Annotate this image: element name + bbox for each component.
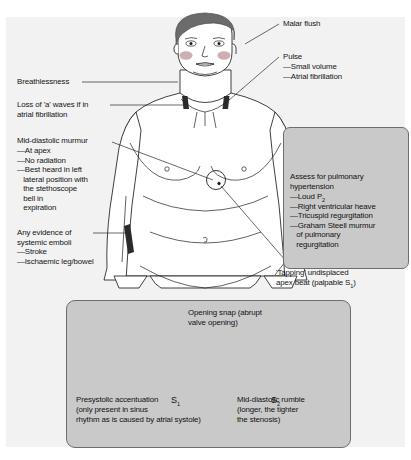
right-panel-item-5: regurgitation xyxy=(290,240,339,250)
s1-subscript: 1 xyxy=(177,401,180,407)
label-pulse-item-1: —Atrial fibrillation xyxy=(283,72,342,82)
label-mid-diastolic-item-2: —Best heard in left xyxy=(17,165,82,175)
label-presystolic-line-0: Presystolic accentuation xyxy=(76,395,158,405)
right-panel-item-2: —Tricuspid regurgitation xyxy=(290,211,373,221)
label-pulse-item-0: —Small volume xyxy=(283,62,337,72)
label-mid-diastolic-item-6: expiration xyxy=(17,203,56,213)
label-emboli-item-0: —Stroke xyxy=(17,247,47,257)
right-panel-item-0-text: —Loud P xyxy=(290,192,322,201)
label-loss-a-waves-line-1: atrial fibrillation xyxy=(17,110,67,120)
label-tapping-apex-line-1: apex beat (palpable S1) xyxy=(276,278,356,288)
right-panel-item-1: —Right ventricular heave xyxy=(290,202,376,212)
label-emboli-item-1: —Ischaemic leg/bowel xyxy=(17,257,94,267)
label-mid-diastolic-murmur-title: Mid-diastolic murmur xyxy=(17,136,88,146)
right-panel-heading-0: Assess for pulmonary xyxy=(290,172,363,182)
label-opening-snap-line-0: Opening snap (abrupt xyxy=(188,308,262,318)
label-opening-snap-line-1: valve opening) xyxy=(188,318,238,328)
label-malar-flush: Malar flush xyxy=(283,19,320,29)
right-panel-item-0: —Loud P2 xyxy=(290,192,325,202)
label-mid-diastolic-item-1: —No radiation xyxy=(17,156,66,166)
tapping-apex-close: ) xyxy=(353,278,356,287)
label-pulse-title: Pulse xyxy=(283,52,302,62)
label-emboli-title-0: Any evidence of xyxy=(17,228,71,238)
label-breathlessness: Breathlessness xyxy=(17,77,69,87)
label-presystolic-line-2: rhythm as is caused by atrial systole) xyxy=(76,415,201,425)
label-rumble-line-2: the stenosis) xyxy=(237,415,280,425)
label-emboli-title-1: systemic emboli xyxy=(17,238,71,248)
right-panel-item-4: of pulmonary xyxy=(290,230,340,240)
tapping-apex-text: apex beat (palpable S xyxy=(276,278,350,287)
label-loss-a-waves-line-0: Loss of 'a' waves if in xyxy=(17,100,88,110)
label-mid-diastolic-item-3: lateral position with xyxy=(17,175,88,185)
s2-subscript: 2 xyxy=(277,401,280,407)
label-heart-sound-s1: S1 xyxy=(171,396,180,406)
right-panel-heading-1: hypertension xyxy=(290,182,334,192)
label-mid-diastolic-item-4: the stethoscope xyxy=(17,184,77,194)
label-heart-sound-s2: S2 xyxy=(271,396,280,406)
label-tapping-apex-line-0: 'Tapping' undisplaced xyxy=(276,268,348,278)
label-mid-diastolic-item-0: —At apex xyxy=(17,146,51,156)
label-rumble-line-1: (longer, the tighter xyxy=(237,405,298,415)
label-presystolic-line-1: (only present in sinus xyxy=(76,405,148,415)
mitral-stenosis-figure: Malar flush Pulse —Small volume —Atrial … xyxy=(0,0,411,460)
label-mid-diastolic-item-5: bell in xyxy=(17,194,43,204)
right-panel-item-3: —Graham Steell murmur xyxy=(290,221,375,231)
